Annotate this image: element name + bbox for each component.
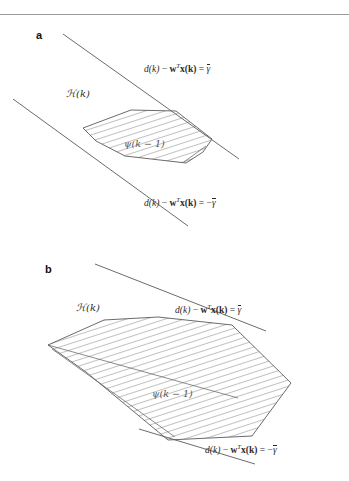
eq-b-lower-minus: −: [223, 445, 228, 455]
eq-a-upper-equals: =: [199, 64, 204, 74]
eq-b-lower-d: d(k): [205, 445, 220, 455]
figure-root: a ℋ(k) d(k) − wTx(k) = γ ψ(k − 1) d(k) −…: [0, 0, 349, 481]
panel-b-set-label: ℋ(k): [76, 302, 100, 313]
eq-b-lower-x: x(k): [241, 445, 257, 455]
eq-a-lower-minus: −: [162, 198, 167, 208]
eq-b-lower-gamma: γ: [273, 445, 277, 456]
panel-a-lower-equation: d(k) − wTx(k) = −γ: [144, 196, 216, 209]
eq-a-lower-d: d(k): [144, 198, 159, 208]
panel-label-b: b: [45, 264, 52, 275]
panel-b-lower-equation: d(k) − wTx(k) = −γ: [205, 443, 277, 456]
eq-b-upper-gamma: γ: [238, 305, 242, 316]
eq-b-upper-equals: =: [230, 305, 235, 315]
eq-a-lower-equals: =: [199, 198, 204, 208]
panel-label-a: a: [36, 30, 42, 41]
eq-a-upper-minus: −: [162, 64, 167, 74]
eq-a-lower-gamma: γ: [212, 198, 216, 209]
eq-a-upper-x: x(k): [180, 64, 196, 74]
eq-b-upper-minus: −: [193, 305, 198, 315]
eq-a-upper-gamma: γ: [207, 64, 211, 75]
panel-a-upper-equation: d(k) − wTx(k) = γ: [144, 62, 210, 75]
panel-b-region-label: ψ(k − 1): [152, 388, 193, 399]
panel-b-upper-equation: d(k) − wTx(k) = γ: [175, 303, 241, 316]
eq-a-lower-x: x(k): [180, 198, 196, 208]
eq-b-upper-x: x(k): [211, 305, 227, 315]
panel-b-graphic: [48, 264, 291, 464]
eq-a-upper-d: d(k): [144, 64, 159, 74]
panel-a-feasible-region: [83, 110, 212, 163]
panel-a-set-label: ℋ(k): [66, 88, 90, 99]
panel-a-region-label: ψ(k − 1): [124, 138, 165, 149]
eq-b-lower-equals: =: [260, 445, 265, 455]
panel-b-feasible-region: [48, 317, 291, 440]
eq-b-upper-d: d(k): [175, 305, 190, 315]
